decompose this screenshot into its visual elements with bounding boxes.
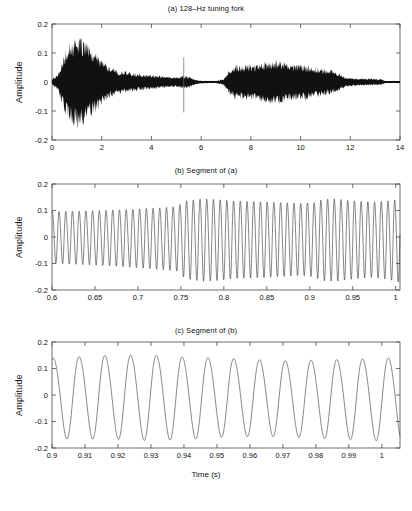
waveform-figure: (a) 128–Hz tuning fork Amplitude -0.2-0.…	[0, 0, 412, 511]
svg-text:0.1: 0.1	[38, 206, 48, 215]
svg-text:0.7: 0.7	[133, 293, 143, 302]
svg-text:1: 1	[380, 451, 384, 460]
svg-text:0.9: 0.9	[305, 293, 315, 302]
panel-a-plot: -0.2-0.100.10.202468101214	[0, 0, 412, 168]
svg-text:0.96: 0.96	[243, 451, 258, 460]
svg-text:0.75: 0.75	[174, 293, 189, 302]
panel-c-title: (c) Segment of (b)	[0, 326, 412, 335]
svg-text:-0.2: -0.2	[35, 136, 48, 145]
svg-text:0.6: 0.6	[47, 293, 57, 302]
svg-text:0: 0	[44, 391, 48, 400]
panel-a-title: (a) 128–Hz tuning fork	[0, 4, 412, 13]
svg-text:10: 10	[296, 143, 304, 152]
svg-text:2: 2	[100, 143, 104, 152]
panel-b: (b) Segment of (a) Amplitude -0.2-0.100.…	[0, 162, 412, 330]
svg-text:8: 8	[249, 143, 253, 152]
panel-a-ylabel: Amplitude	[14, 61, 24, 103]
panel-b-title: (b) Segment of (a)	[0, 166, 412, 175]
panel-b-ylabel: Amplitude	[14, 216, 24, 258]
svg-text:0.2: 0.2	[38, 20, 48, 29]
svg-text:0.93: 0.93	[144, 451, 159, 460]
svg-text:14: 14	[396, 143, 404, 152]
svg-text:0.8: 0.8	[219, 293, 229, 302]
svg-text:0.98: 0.98	[309, 451, 324, 460]
svg-text:-0.1: -0.1	[35, 259, 48, 268]
svg-text:0.99: 0.99	[342, 451, 357, 460]
svg-text:4: 4	[149, 143, 153, 152]
svg-text:0.97: 0.97	[276, 451, 291, 460]
svg-text:-0.1: -0.1	[35, 417, 48, 426]
svg-text:12: 12	[346, 143, 354, 152]
svg-text:0: 0	[50, 143, 54, 152]
svg-text:0.95: 0.95	[210, 451, 225, 460]
svg-text:-0.1: -0.1	[35, 107, 48, 116]
svg-text:0.94: 0.94	[177, 451, 192, 460]
svg-text:0.85: 0.85	[260, 293, 275, 302]
svg-text:0.2: 0.2	[38, 338, 48, 347]
svg-text:0.2: 0.2	[38, 180, 48, 189]
panel-c-xlabel: Time (s)	[0, 470, 412, 479]
panel-c: (c) Segment of (b) Amplitude -0.2-0.100.…	[0, 322, 412, 511]
svg-text:0.91: 0.91	[78, 451, 93, 460]
svg-text:0: 0	[44, 78, 48, 87]
svg-text:0.95: 0.95	[345, 293, 360, 302]
panel-c-ylabel: Amplitude	[14, 374, 24, 416]
svg-text:0.65: 0.65	[88, 293, 103, 302]
svg-text:6: 6	[199, 143, 203, 152]
svg-text:0.1: 0.1	[38, 49, 48, 58]
svg-text:0: 0	[44, 233, 48, 242]
panel-a: (a) 128–Hz tuning fork Amplitude -0.2-0.…	[0, 0, 412, 168]
panel-b-plot: -0.2-0.100.10.20.60.650.70.750.80.850.90…	[0, 162, 412, 330]
svg-text:0.92: 0.92	[111, 451, 126, 460]
svg-text:0.1: 0.1	[38, 364, 48, 373]
svg-text:0.9: 0.9	[47, 451, 57, 460]
svg-text:1: 1	[394, 293, 398, 302]
panel-c-plot: -0.2-0.100.10.20.90.910.920.930.940.950.…	[0, 322, 412, 482]
